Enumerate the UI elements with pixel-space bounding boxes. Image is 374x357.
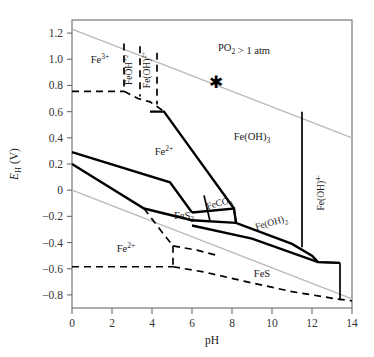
- y-axis-title-unit: (V): [8, 148, 21, 167]
- y-tick-label: 0.2: [49, 158, 64, 170]
- y-axis-title-italic: E: [8, 173, 20, 181]
- x-axis-title-text: pH: [205, 334, 219, 347]
- y-tick-label: −0.4: [42, 237, 63, 249]
- y-tick-label: 0: [57, 184, 63, 196]
- asterisk-marker: ✱: [209, 73, 223, 92]
- x-tick-label: 14: [346, 317, 358, 329]
- y-tick-label: −0.2: [42, 210, 63, 222]
- y-axis-title: EH (V): [8, 148, 23, 181]
- eh-ph-diagram-figure: 02468101214 1.21.00.80.60.40.20−0.2−0.4−…: [0, 0, 374, 357]
- y-tick-label: 0.8: [49, 79, 64, 91]
- x-axis-title: pH: [205, 334, 219, 347]
- y-tick-label: −0.6: [42, 263, 63, 275]
- x-tick-label: 12: [306, 317, 318, 329]
- y-tick-label: 1.2: [49, 27, 64, 39]
- x-tick-label: 4: [149, 317, 155, 329]
- x-tick-label: 8: [229, 317, 235, 329]
- x-tick-label: 10: [266, 317, 278, 329]
- pourbaix-plot-svg: 02468101214 1.21.00.80.60.40.20−0.2−0.4−…: [0, 0, 374, 357]
- y-axis-ticks: 1.21.00.80.60.40.20−0.2−0.4−0.6−0.8: [42, 27, 72, 301]
- y-tick-label: 1.0: [49, 53, 64, 65]
- y-axis-title-text: EH (V): [8, 148, 23, 181]
- feoh2-lower-right: [318, 262, 340, 263]
- x-axis-ticks: 02468101214: [69, 308, 358, 329]
- y-tick-label: 0.4: [49, 132, 64, 144]
- x-tick-label: 6: [189, 317, 195, 329]
- x-tick-label: 2: [109, 317, 115, 329]
- field-label-fes: FeS: [254, 268, 271, 279]
- y-tick-label: 0.6: [49, 106, 64, 118]
- y-tick-label: −0.8: [42, 289, 63, 301]
- x-tick-label: 0: [69, 317, 75, 329]
- fes-text: FeS: [254, 268, 271, 279]
